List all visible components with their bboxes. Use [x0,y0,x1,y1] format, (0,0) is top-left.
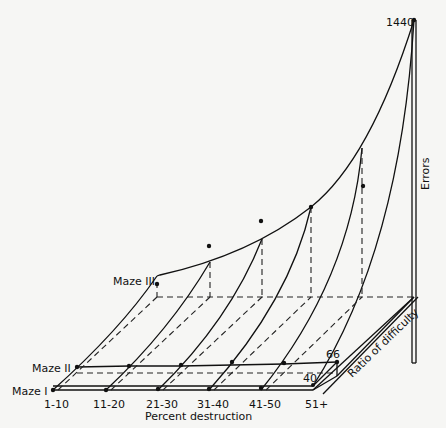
tick-51-plus: 51+ [305,398,328,411]
difficulty-curves [53,20,414,390]
x-axis-title: Percent destruction [145,410,252,423]
data-points [51,18,416,392]
maze3-label: Maze III [113,275,155,288]
value-66: 66 [326,348,340,361]
z-axis-title: Ratio of difficulty [345,306,422,381]
tick-1-10: 1-10 [44,398,69,411]
y-axis-title: Errors [419,157,432,190]
value-40: 40 [303,372,317,385]
value-1440: 1440 [386,16,414,29]
tick-11-20: 11-20 [93,398,125,411]
tick-41-50: 41-50 [249,398,281,411]
maze2-line [77,362,337,373]
chart-canvas: Maze I Maze II Maze III 1-10 11-20 21-30… [0,0,446,428]
maze3-curve [157,20,414,276]
maze2-label: Maze II [32,362,71,375]
right-box-edges [313,297,418,394]
maze1-baseline [53,386,313,390]
maze1-label: Maze I [12,385,48,398]
